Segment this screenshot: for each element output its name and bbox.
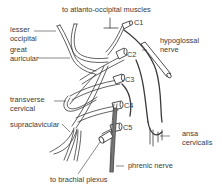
ansa-cervicalis	[148, 122, 162, 146]
great-auricular-nerve	[71, 24, 108, 63]
label-root-c4: C4	[124, 102, 133, 111]
label-lesser-occipital: lesser occipital	[10, 26, 37, 43]
label-brachial-plexus: to brachial plexus	[50, 176, 108, 185]
root-c3	[70, 74, 131, 116]
label-supraclavicular: supraclavicular	[10, 121, 59, 130]
label-root-c3: C3	[125, 76, 134, 85]
label-ansa-cervicalis: ansa cervicalis	[182, 130, 212, 147]
transverse-cervical-nerve	[64, 96, 97, 111]
label-hypoglossal: hypoglossal nerve	[160, 37, 199, 54]
label-line: nerve	[160, 46, 199, 55]
label-root-c2: C2	[127, 51, 136, 60]
label-transverse-cervical: transverse cervical	[10, 96, 45, 113]
label-line: cervicalis	[182, 139, 212, 148]
supraclavicular-nerve	[50, 128, 81, 161]
label-root-c5: C5	[123, 124, 132, 133]
label-phrenic-nerve: phrenic nerve	[128, 162, 173, 171]
main-trunk	[70, 66, 108, 128]
label-line: occipital	[10, 35, 37, 44]
lesser-occipital-nerve	[57, 25, 96, 74]
label-great-auricular: great auricular	[10, 46, 38, 63]
label-atlanto-occipital: to atlanto-occipital muscles	[62, 6, 151, 15]
root-c1	[122, 21, 133, 29]
label-line: auricular	[10, 55, 38, 64]
label-root-c1: C1	[134, 19, 143, 28]
label-line: cervical	[10, 105, 45, 114]
